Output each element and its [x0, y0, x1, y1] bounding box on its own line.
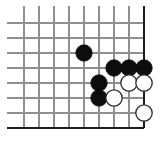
go-board-canvas: [0, 0, 162, 153]
white-stone: [106, 90, 122, 106]
white-stone: [136, 105, 152, 121]
black-stone: [91, 90, 107, 106]
black-stone: [121, 60, 137, 76]
black-stone: [91, 75, 107, 91]
black-stone: [106, 60, 122, 76]
white-stone: [136, 75, 152, 91]
white-stone: [121, 75, 137, 91]
go-board-diagram: [0, 0, 162, 153]
black-stone: [76, 45, 92, 61]
black-stone: [136, 60, 152, 76]
